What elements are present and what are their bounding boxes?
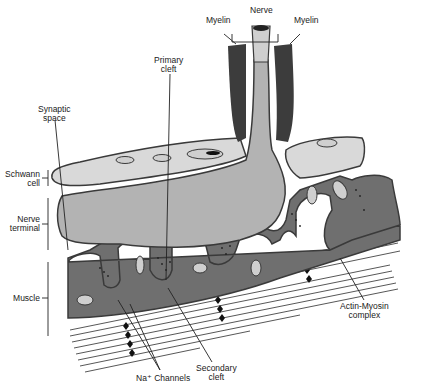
label-schwann-cell: Schwanncell	[2, 170, 40, 188]
label-muscle: Muscle	[2, 294, 40, 303]
dark-organelle	[206, 151, 220, 155]
label-myelin-right: Myelin	[294, 16, 319, 25]
label-line: complex	[349, 310, 381, 320]
label-synaptic-space: Synapticspace	[38, 105, 71, 123]
label-primary-cleft: Primarycleft	[154, 56, 183, 74]
label-myelin-left: Myelin	[206, 16, 231, 25]
label-line: terminal	[10, 223, 40, 233]
label-line: cleft	[161, 64, 177, 74]
label-line: cell	[27, 178, 40, 188]
neuromuscular-junction-diagram	[0, 0, 424, 389]
label-actin-myosin-complex: Actin-Myosincomplex	[340, 302, 389, 320]
label-nerve: Nerve	[250, 6, 273, 15]
nerve-axon-opening	[253, 25, 269, 31]
label-line: space	[43, 113, 66, 123]
label-line: cleft	[209, 372, 225, 382]
nerve-axon	[252, 26, 270, 62]
label-nerve-terminal: Nerveterminal	[2, 215, 40, 233]
label-secondary-cleft: Secondarycleft	[196, 364, 237, 382]
label-na-channels: Na⁺ Channels	[136, 374, 190, 383]
